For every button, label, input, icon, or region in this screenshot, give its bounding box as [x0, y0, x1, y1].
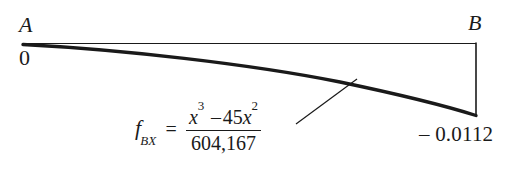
formula-fraction: x3 – 45x2 604,167: [186, 104, 261, 155]
numerator-var-2: x: [243, 106, 252, 128]
node-label-a: A: [19, 14, 32, 36]
numerator-exp-2: 2: [252, 98, 259, 113]
end-value-label: – 0.0112: [419, 124, 493, 145]
formula-equals: =: [166, 118, 177, 141]
formula-leader-line: [296, 79, 357, 124]
formula-numerator: x3 – 45x2: [186, 104, 261, 130]
diagram-canvas: [0, 0, 527, 178]
numerator-var-1: x: [189, 106, 198, 128]
formula-subscript: BX: [140, 133, 156, 148]
numerator-operator: –: [211, 106, 221, 128]
node-label-b: B: [468, 12, 481, 34]
formula-denominator: 604,167: [188, 131, 259, 155]
formula-symbol: fBX: [135, 115, 159, 144]
start-value-label: 0: [19, 47, 30, 69]
flexibility-coefficient-formula: fBX = x3 – 45x2 604,167: [135, 104, 261, 155]
numerator-coeff-2: 45: [223, 106, 243, 128]
deflection-diagram: A B 0 – 0.0112 fBX = x3 – 45x2 604,167: [0, 0, 527, 178]
numerator-exp-1: 3: [198, 98, 205, 113]
